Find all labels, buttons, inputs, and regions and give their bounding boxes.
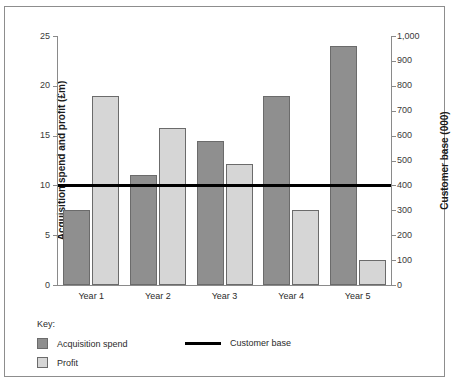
chart-frame: Acquisition spend and profit (£m) Custom… — [4, 6, 445, 377]
y-axis-left-tick — [53, 86, 57, 87]
legend-swatch-profit — [37, 357, 48, 368]
legend-title: Key: — [37, 319, 55, 329]
y-axis-right-tick-label: 800 — [397, 81, 412, 90]
y-axis-left-tick — [53, 285, 57, 286]
bar-acquisition-spend — [330, 46, 357, 285]
y-axis-right-tick-label: 600 — [397, 131, 412, 140]
y-axis-right-tick-label: 500 — [397, 156, 412, 165]
y-axis-right-tick-label: 400 — [397, 181, 412, 190]
y-axis-left-tick-label: 0 — [20, 281, 50, 290]
y-axis-right-tick — [392, 61, 396, 62]
y-axis-left-tick — [53, 36, 57, 37]
bar-acquisition-spend — [130, 175, 157, 285]
y-axis-right-tick — [392, 86, 396, 87]
legend-label-customer-base: Customer base — [230, 338, 291, 348]
y-axis-right-tick — [392, 161, 396, 162]
y-axis-left-tick-label: 25 — [20, 32, 50, 41]
y-axis-right-tick — [392, 285, 396, 286]
y-axis-right-tick-label: 200 — [397, 231, 412, 240]
legend-label-profit: Profit — [57, 358, 78, 368]
y-axis-right-tick — [392, 185, 396, 186]
y-axis-left-tick — [53, 136, 57, 137]
bar-acquisition-spend — [263, 96, 290, 285]
legend-swatch-customer-base — [185, 342, 221, 345]
y-axis-left-tick-label: 5 — [20, 231, 50, 240]
customer-base-line — [58, 184, 391, 187]
legend-item-customer-base: Customer base — [185, 338, 291, 348]
y-axis-right-tick — [392, 260, 396, 261]
y-axis-left-tick — [53, 185, 57, 186]
bar-profit — [92, 96, 119, 285]
y-axis-right-tick-label: 300 — [397, 206, 412, 215]
y-axis-right-tick — [392, 111, 396, 112]
legend-item-profit: Profit — [37, 357, 78, 368]
y-axis-right-tick-label: 900 — [397, 56, 412, 65]
y-axis-right-tick-label: 100 — [397, 256, 412, 265]
y-axis-right-tick — [392, 235, 396, 236]
bar-profit — [159, 128, 186, 285]
bar-acquisition-spend — [63, 210, 90, 285]
legend-swatch-acquisition-spend — [37, 338, 48, 349]
x-axis-label: Year 5 — [318, 291, 398, 301]
y-axis-right-tick-label: 0 — [397, 281, 402, 290]
y-axis-left-tick-label: 15 — [20, 131, 50, 140]
legend-item-acquisition-spend: Acquisition spend — [37, 338, 128, 349]
bar-profit — [226, 164, 253, 286]
y-axis-left-tick-label: 10 — [20, 181, 50, 190]
bar-profit — [359, 260, 386, 285]
y-axis-left-tick — [53, 235, 57, 236]
y-axis-right-title: Customer base (000) — [439, 66, 450, 256]
y-axis-right-tick-label: 700 — [397, 106, 412, 115]
chart-page: Acquisition spend and profit (£m) Custom… — [0, 0, 452, 385]
y-axis-right-tick — [392, 136, 396, 137]
bar-profit — [292, 210, 319, 285]
bar-acquisition-spend — [197, 141, 224, 285]
x-axis-line — [57, 285, 392, 286]
plot-area — [58, 36, 391, 285]
legend-label-acquisition-spend: Acquisition spend — [57, 339, 128, 349]
y-axis-left-tick-label: 20 — [20, 81, 50, 90]
y-axis-right-tick-label: 1,000 — [397, 32, 420, 41]
y-axis-right-tick — [392, 210, 396, 211]
y-axis-right-tick — [392, 36, 396, 37]
